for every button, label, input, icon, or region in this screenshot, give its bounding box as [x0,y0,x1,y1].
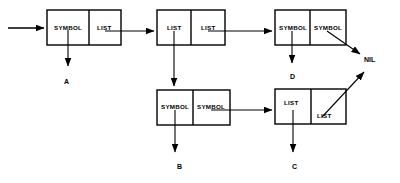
cell-label-box3-car: SYMBOL [279,25,307,31]
cell-label-box1-cdr: LIST [97,25,111,31]
node-label-d: D [290,73,295,80]
node-label-b: B [177,163,182,170]
cell-label-box4-cdr: SYMBOL [197,104,225,110]
cell-label-box4-car: SYMBOL [161,104,189,110]
diagram-canvas: SYMBOL LIST LIST LIST SYMBOL SYMBOL SYMB… [0,0,400,183]
cell-label-box2-car: LIST [167,25,181,31]
cons-cell-box-5 [275,89,346,124]
cell-label-box5-cdr: LIST [317,113,331,119]
node-label-a: A [64,78,69,85]
cell-label-box5-car: LIST [284,100,298,106]
cell-label-box1-car: SYMBOL [54,25,82,31]
cell-label-box2-cdr: LIST [201,25,215,31]
node-label-nil: NIL [364,56,375,63]
cell-label-box3-cdr: SYMBOL [314,25,342,31]
node-label-c: C [292,163,297,170]
